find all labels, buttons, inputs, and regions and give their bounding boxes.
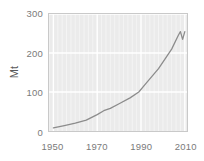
x-tick-label: 1990 — [130, 141, 152, 152]
x-tick-label: 2010 — [175, 141, 197, 152]
x-tick-label: 1970 — [86, 141, 108, 152]
chart-figure: Mt 0100200300 1950197019902010 — [0, 0, 204, 161]
x-axis-tick-labels: 1950197019902010 — [0, 0, 204, 161]
x-tick-label: 1950 — [41, 141, 63, 152]
